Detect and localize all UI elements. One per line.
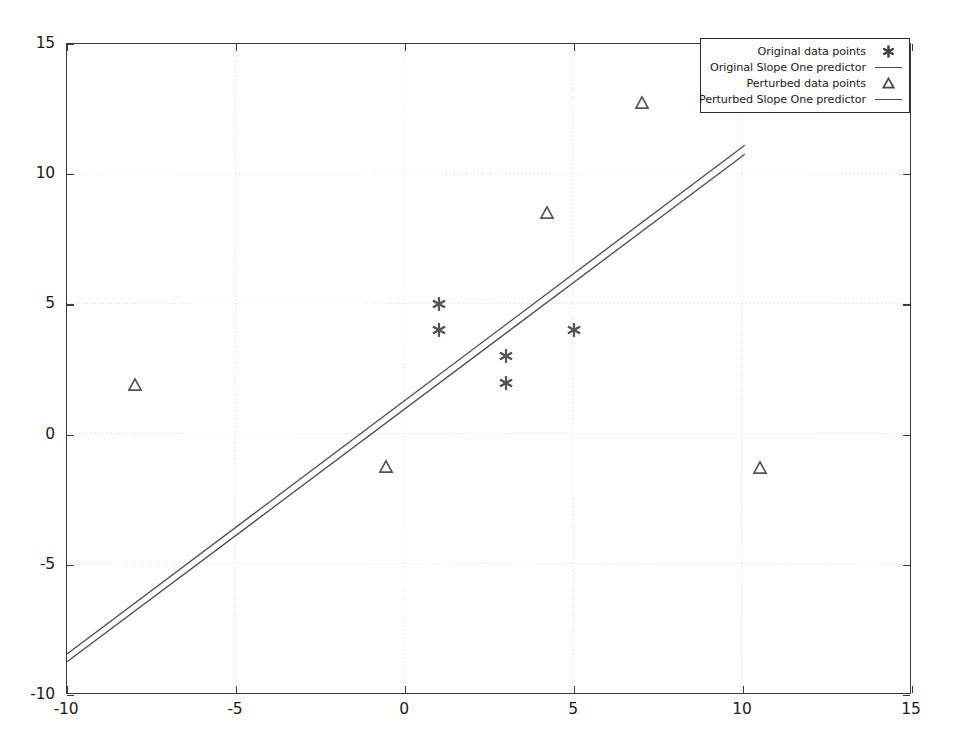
x-tick-label: -10 — [54, 700, 79, 718]
y-tick-label: 15 — [0, 34, 55, 52]
y-tick-label: 5 — [0, 294, 55, 312]
y-tick-mark-right — [903, 435, 910, 436]
x-tick-mark — [574, 686, 575, 693]
original-data-point-marker — [567, 323, 582, 338]
x-tick-mark-top — [405, 44, 406, 51]
legend-triangle-marker-icon — [873, 77, 903, 90]
x-tick-mark-top — [574, 44, 575, 51]
y-tick-mark — [67, 565, 74, 566]
x-tick-mark-top — [912, 44, 913, 51]
plot-area — [66, 43, 911, 694]
y-tick-mark — [67, 174, 74, 175]
legend-line-swatch — [873, 99, 903, 100]
y-tick-label: -10 — [0, 685, 55, 703]
y-tick-mark-right — [903, 304, 910, 305]
perturbed-data-point-marker — [379, 460, 394, 475]
legend-entry: Original Slope One predictor — [707, 59, 903, 75]
legend-asterisk-marker-icon — [873, 45, 903, 58]
x-tick-mark — [912, 686, 913, 693]
x-tick-label: -5 — [227, 700, 242, 718]
x-tick-label: 0 — [399, 700, 409, 718]
chart-legend: Original data pointsOriginal Slope One p… — [700, 38, 910, 113]
perturbed-data-point-marker — [752, 461, 767, 476]
legend-entry-label: Perturbed data points — [746, 77, 866, 90]
legend-entry-label: Perturbed Slope One predictor — [699, 93, 866, 106]
data-point-markers — [67, 44, 910, 693]
x-tick-mark — [236, 686, 237, 693]
legend-line-swatch — [873, 67, 903, 68]
x-tick-mark — [743, 686, 744, 693]
legend-entry: Original data points — [707, 43, 903, 59]
x-tick-label: 10 — [732, 700, 751, 718]
legend-entry: Perturbed Slope One predictor — [707, 91, 903, 107]
perturbed-data-point-marker — [634, 95, 649, 110]
y-tick-mark — [67, 304, 74, 305]
original-data-point-marker — [431, 323, 446, 338]
y-tick-label: 0 — [0, 425, 55, 443]
x-tick-label: 15 — [901, 700, 920, 718]
perturbed-data-point-marker — [539, 206, 554, 221]
legend-entry: Perturbed data points — [707, 75, 903, 91]
perturbed-data-point-marker — [127, 378, 142, 393]
y-tick-mark-right — [903, 565, 910, 566]
original-data-point-marker — [431, 297, 446, 312]
y-tick-label: -5 — [0, 555, 55, 573]
y-tick-mark-right — [903, 174, 910, 175]
y-tick-mark-right — [903, 695, 910, 696]
chart-figure: -10-5051015 -10-5051015 Original data po… — [0, 0, 955, 754]
original-data-point-marker — [499, 375, 514, 390]
y-tick-label: 10 — [0, 164, 55, 182]
x-tick-mark-top — [67, 44, 68, 51]
original-data-point-marker — [499, 349, 514, 364]
line-icon — [875, 67, 902, 68]
x-tick-mark — [405, 686, 406, 693]
line-icon — [875, 99, 902, 100]
y-tick-mark — [67, 695, 74, 696]
x-tick-label: 5 — [568, 700, 578, 718]
legend-entry-label: Original Slope One predictor — [710, 61, 866, 74]
y-tick-mark — [67, 435, 74, 436]
x-tick-mark-top — [236, 44, 237, 51]
legend-entry-label: Original data points — [758, 45, 866, 58]
x-tick-mark — [67, 686, 68, 693]
